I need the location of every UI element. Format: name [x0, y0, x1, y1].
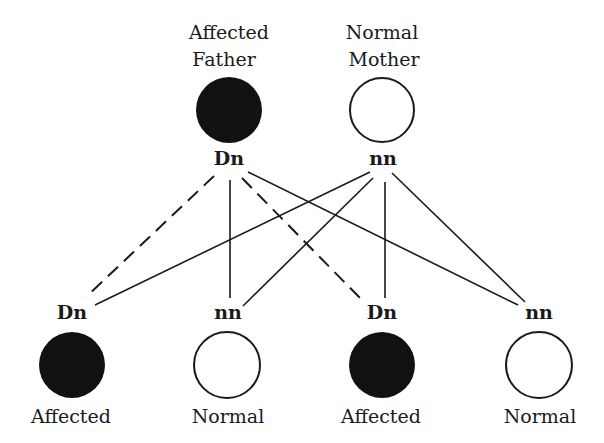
mother-symbol-normal [350, 78, 414, 142]
father-caption-line2: Father [192, 47, 255, 71]
child3-genotype: Dn [367, 301, 397, 323]
line-father-to-child3-dashed [242, 178, 360, 298]
father-symbol-affected [196, 77, 262, 143]
mother-caption-line1: Normal [346, 20, 419, 44]
child3-caption: Affected [341, 404, 421, 428]
line-father-to-child4 [248, 172, 518, 305]
child3-symbol-affected [349, 332, 415, 398]
child1-genotype: Dn [57, 301, 87, 323]
mother-caption-line2: Mother [348, 47, 419, 71]
line-mother-to-child2 [243, 178, 373, 306]
line-mother-to-child1 [95, 172, 370, 305]
child2-caption: Normal [192, 404, 265, 428]
child4-caption: Normal [504, 404, 577, 428]
child4-genotype: nn [525, 301, 553, 323]
child1-caption: Affected [31, 404, 111, 428]
child2-symbol-normal [194, 332, 260, 398]
pedigree-lines [0, 0, 604, 443]
pedigree-diagram: Affected Father Normal Mother Dn nn Dn n… [0, 0, 604, 443]
child4-symbol-normal [506, 332, 572, 398]
child2-genotype: nn [214, 301, 242, 323]
father-caption-line1: Affected [189, 20, 269, 44]
mother-genotype: nn [369, 147, 397, 169]
line-mother-to-child4 [392, 173, 525, 302]
father-genotype: Dn [214, 147, 244, 169]
child1-symbol-affected [39, 332, 105, 398]
